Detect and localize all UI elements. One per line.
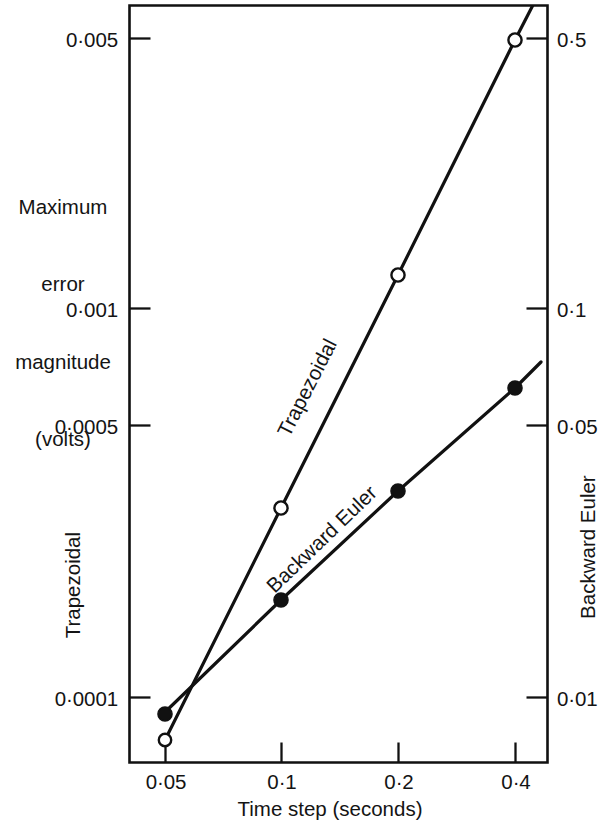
x-tick-label-0: 0·05: [120, 770, 212, 794]
right-tick-label-3: 0·01: [557, 687, 606, 711]
y-axis-title-line-3: (volts): [4, 426, 122, 452]
trapezoidal-line: [165, 0, 552, 740]
y-axis-title-line-1: error: [4, 271, 122, 297]
backward-euler-point-04: [508, 381, 522, 395]
y-axis-title-line-2: magnitude: [4, 349, 122, 375]
left-tick-label-3: 0·0001: [6, 687, 118, 711]
backward-euler-line: [161, 362, 541, 716]
right-tick-label-1: 0·1: [557, 298, 606, 322]
y-axis-title: Maximum error magnitude (volts): [4, 142, 122, 504]
axis-frame: [130, 6, 548, 763]
x-tick-label-2: 0·2: [357, 770, 441, 794]
trapezoidal-point-01: [274, 501, 287, 514]
left-tick-label-0: 0·005: [6, 28, 118, 52]
x-tick-label-3: 0·4: [474, 770, 558, 794]
left-axis-name: Trapezoidal: [61, 505, 85, 665]
x-axis-title: Time step (seconds): [180, 797, 480, 821]
x-tick-label-1: 0·1: [240, 770, 324, 794]
backward-euler-point-02: [391, 484, 405, 498]
plot-frame: [130, 6, 548, 763]
right-tick-label-0: 0·5: [557, 28, 606, 52]
right-tick-label-2: 0·05: [557, 415, 606, 439]
backward-euler-point-005: [158, 707, 172, 721]
series-trapezoidal: [159, 0, 552, 746]
series-backward-euler: [158, 362, 541, 721]
data-layer: [158, 0, 552, 746]
left-axis-ticks: [130, 39, 151, 698]
y-axis-title-line-0: Maximum: [4, 194, 122, 220]
trapezoidal-point-005: [159, 734, 171, 746]
trapezoidal-point-02: [391, 268, 404, 281]
x-axis-ticks: [166, 743, 516, 763]
chart-figure: 0·005 0·001 0·0005 0·0001 0·5 0·1 0·05 0…: [0, 0, 606, 821]
right-axis-name: Backward Euler: [576, 447, 600, 647]
trapezoidal-point-04: [508, 33, 521, 46]
